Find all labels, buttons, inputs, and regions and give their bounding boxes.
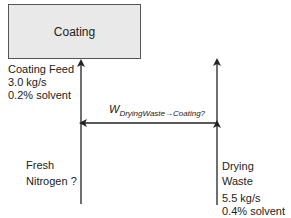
coating-feed-label: Coating Feed 3.0 kg/s 0.2% solvent [8, 63, 74, 102]
recycle-stream-label: WDryingWaste→Coating? [109, 103, 205, 118]
drying-waste-label: Drying Waste [222, 159, 254, 189]
fresh-nitrogen-label: Fresh Nitrogen ? [26, 157, 77, 189]
drying-waste-data: 5.5 kg/s 0.4% solvent [222, 192, 285, 218]
